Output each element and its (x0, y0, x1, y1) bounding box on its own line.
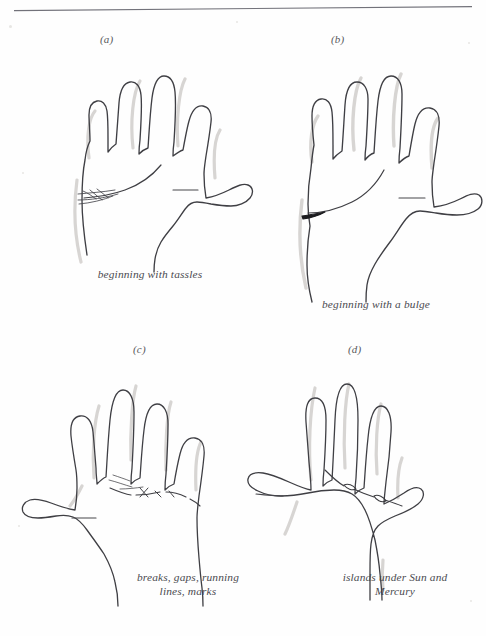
heart-line-a (84, 165, 161, 198)
figure-caption-d: islands under Sun and Mercury (315, 571, 475, 598)
hand-outline-a (82, 76, 252, 272)
scan-speck (468, 42, 470, 44)
hand-diagram-a (45, 50, 250, 275)
scan-speck (470, 600, 472, 602)
island-marking-sun-d (344, 484, 356, 490)
figure-page: (a) (0, 0, 486, 636)
figure-label-a: (a) (100, 33, 113, 45)
top-horizontal-rule (14, 6, 472, 9)
figure-label-c: (c) (133, 343, 146, 355)
tassles-marking-a (78, 189, 118, 204)
hand-diagram-b (272, 50, 482, 305)
figure-label-b: (b) (331, 33, 344, 45)
hand-diagram-d (205, 352, 425, 602)
scan-speck (9, 25, 12, 28)
scan-speck (236, 21, 238, 23)
scan-speck (22, 172, 24, 174)
figure-caption-a: beginning with tassles (60, 268, 240, 282)
heart-line-b (308, 170, 384, 213)
running-lines-c (109, 475, 143, 489)
figure-caption-b: beginning with a bulge (281, 298, 471, 312)
